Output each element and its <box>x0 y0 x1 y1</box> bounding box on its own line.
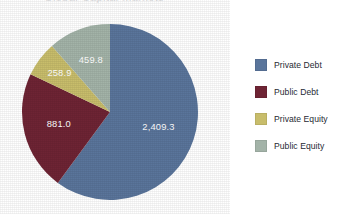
legend-item-private-equity[interactable]: Private Equity <box>255 112 342 126</box>
pie-value-label-public-equity: 459.8 <box>79 54 103 65</box>
legend-label-private-debt: Private Debt <box>274 60 322 70</box>
legend-swatch-icon-public-debt <box>255 86 267 98</box>
legend-item-private-debt[interactable]: Private Debt <box>255 58 342 72</box>
pie-value-label-public-debt: 881.0 <box>47 118 71 129</box>
pie-chart-figure: Global Capital Markets 2,409.3881.0258.9… <box>0 0 342 214</box>
legend-swatch-icon-private-debt <box>255 59 267 71</box>
pie-slices <box>22 24 198 200</box>
pie-chart-svg: 2,409.3881.0258.9459.8 <box>0 0 230 214</box>
pie-chart-area: 2,409.3881.0258.9459.8 <box>0 0 230 214</box>
legend-swatch-icon-public-equity <box>255 140 267 152</box>
legend-item-public-equity[interactable]: Public Equity <box>255 139 342 153</box>
legend-swatch-icon-private-equity <box>255 113 267 125</box>
pie-value-label-private-equity: 258.9 <box>47 67 71 78</box>
legend-label-public-equity: Public Equity <box>274 141 324 151</box>
legend-label-private-equity: Private Equity <box>274 114 328 124</box>
chart-legend: Private Debt Public Debt Private Equity … <box>255 58 342 166</box>
legend-item-public-debt[interactable]: Public Debt <box>255 85 342 99</box>
pie-value-label-private-debt: 2,409.3 <box>142 121 174 132</box>
legend-label-public-debt: Public Debt <box>274 87 319 97</box>
